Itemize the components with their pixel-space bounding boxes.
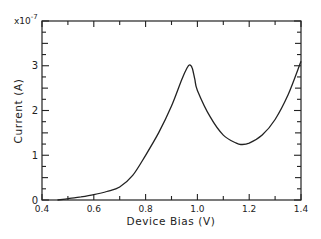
- y-tick-label: 2: [32, 105, 38, 116]
- x-tick-label: 1.2: [242, 204, 256, 214]
- x-axis-label: Device Bias (V): [127, 215, 216, 227]
- y-tick-label: 0: [32, 195, 38, 206]
- data-curve: [58, 61, 302, 200]
- multiplier-exponent: -7: [31, 13, 38, 21]
- axis-tick-labels: 0.40.60.81.01.21.40123: [32, 60, 309, 214]
- y-axis-multiplier: x10-7: [14, 13, 38, 26]
- y-tick-label: 3: [32, 60, 38, 71]
- axes-box: [42, 21, 301, 200]
- x-tick-label: 0.8: [138, 204, 153, 214]
- x-tick-label: 1.0: [190, 204, 205, 214]
- y-axis-label: Current (A): [12, 79, 24, 144]
- x-tick-label: 0.4: [35, 204, 50, 214]
- iv-chart: 0.40.60.81.01.21.40123 Device Bias (V) C…: [0, 0, 321, 239]
- y-tick-label: 1: [32, 150, 38, 161]
- plot-frame: [42, 21, 301, 200]
- multiplier-base: x10: [14, 16, 31, 26]
- x-tick-label: 0.6: [87, 204, 102, 214]
- axis-ticks: [42, 21, 301, 200]
- x-tick-label: 1.4: [294, 204, 309, 214]
